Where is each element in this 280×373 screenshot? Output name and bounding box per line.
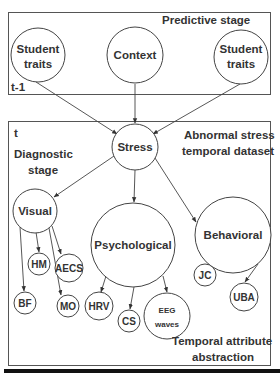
dataset-label-1: Abnormal stress [184,129,275,141]
node-mo: MO [57,295,79,317]
node-student-traits-right: Student traits [214,30,268,84]
node-jc: JC [194,264,216,286]
node-hrv: HRV [85,292,113,320]
node-context: Context [107,27,163,83]
node-bf: BF [14,292,36,314]
dataset-label-2: temporal dataset [182,145,274,157]
svg-text:Behavioral: Behavioral [204,229,263,241]
svg-text:traits: traits [24,58,52,70]
node-cs: CS [118,310,140,332]
node-hm: HM [28,253,50,275]
time-t-label: t [14,127,18,139]
svg-text:EEG: EEG [159,306,176,315]
diagnostic-stage-label-2: stage [28,164,58,176]
svg-text:Stress: Stress [117,141,152,153]
node-uba: UBA [230,283,258,311]
svg-text:Psychological: Psychological [94,239,171,251]
svg-text:BF: BF [18,298,31,309]
node-psychological: Psychological [91,203,175,287]
svg-text:Student: Student [220,43,263,55]
stress-diagram: Student traits Context Student traits St… [0,0,280,373]
node-eeg-waves: EEG waves [144,293,190,339]
svg-text:Student: Student [17,43,60,55]
svg-text:HRV: HRV [89,301,110,312]
node-visual: Visual [13,189,57,233]
svg-text:Visual: Visual [18,205,52,217]
abstraction-label-2: abstraction [192,351,254,363]
svg-text:Context: Context [114,49,157,61]
svg-text:traits: traits [227,58,255,70]
svg-text:CS: CS [122,316,136,327]
abstraction-label-1: Temporal attribute [172,335,272,347]
svg-text:HM: HM [31,259,47,270]
predictive-stage-label: Predictive stage [162,14,250,26]
time-t-minus-1-label: t-1 [11,81,26,93]
svg-text:UBA: UBA [233,292,255,303]
node-stress: Stress [112,124,158,170]
svg-text:AECS: AECS [55,263,83,274]
bottom-border-bar [4,369,280,373]
svg-text:waves: waves [154,320,180,329]
svg-text:JC: JC [199,270,212,281]
diagnostic-stage-label-1: Diagnostic [14,148,73,160]
node-behavioral: Behavioral [195,197,271,273]
node-student-traits-left: Student traits [11,28,65,82]
svg-text:MO: MO [60,301,76,312]
node-aecs: AECS [55,254,83,282]
